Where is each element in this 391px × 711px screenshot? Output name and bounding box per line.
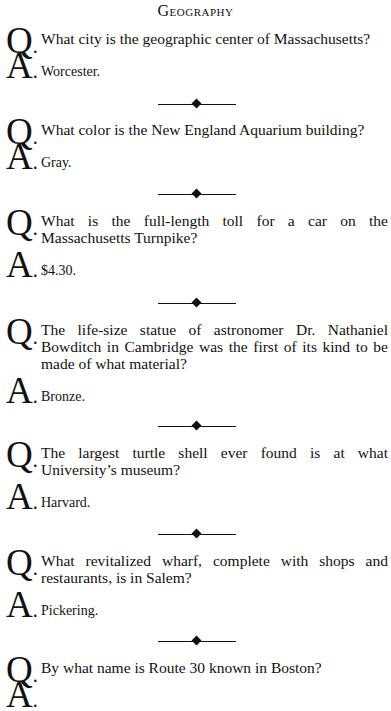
diamond-icon — [192, 636, 202, 646]
question-text: What city is the geographic center of Ma… — [41, 30, 388, 47]
qa-item: Q. The life-size statue of astronomer Dr… — [6, 321, 388, 405]
section-divider — [158, 421, 236, 433]
a-marker: A. — [6, 51, 38, 86]
question-text: The life-size statue of astronomer Dr. N… — [41, 321, 388, 372]
answer-text: Pickering. — [41, 594, 388, 619]
question-text: The largest turtle shell ever found is a… — [41, 444, 388, 478]
q-marker: Q. — [6, 548, 38, 583]
qa-item: Q. What is the full-length toll for a ca… — [6, 212, 388, 279]
q-marker: Q. — [6, 317, 38, 352]
section-divider — [158, 189, 236, 201]
section-divider — [158, 298, 236, 310]
answer-text: $4.30. — [41, 254, 388, 279]
a-marker: A. — [6, 250, 38, 285]
answer-text — [41, 684, 388, 692]
qa-item: Q. What city is the geographic center of… — [6, 30, 388, 80]
qa-item: Q. By what name is Route 30 known in Bos… — [6, 659, 388, 692]
section-divider — [158, 529, 236, 541]
answer-text: Worcester. — [41, 55, 388, 80]
diamond-icon — [192, 529, 202, 539]
question-text: What revitalized wharf, complete with sh… — [41, 552, 388, 586]
qa-item: Q. What color is the New England Aquariu… — [6, 121, 388, 171]
diamond-icon — [192, 421, 202, 431]
answer-text: Gray. — [41, 146, 388, 171]
a-marker: A. — [6, 376, 38, 411]
a-marker: A. — [6, 482, 38, 517]
question-text: What is the full-length toll for a car o… — [41, 212, 388, 246]
q-marker: Q. — [6, 440, 38, 475]
question-text: What color is the New England Aquarium b… — [41, 121, 388, 138]
diamond-icon — [192, 298, 202, 308]
a-marker: A. — [6, 590, 38, 625]
page-title: Geography — [0, 2, 391, 20]
q-marker: Q. — [6, 208, 38, 243]
section-divider — [158, 636, 236, 648]
a-marker: A. — [6, 680, 38, 711]
section-divider — [158, 99, 236, 111]
qa-item: Q. The largest turtle shell ever found i… — [6, 444, 388, 511]
answer-text: Bronze. — [41, 380, 388, 405]
diamond-icon — [192, 189, 202, 199]
diamond-icon — [192, 99, 202, 109]
a-marker: A. — [6, 142, 38, 177]
qa-item: Q. What revitalized wharf, complete with… — [6, 552, 388, 619]
answer-text: Harvard. — [41, 486, 388, 511]
question-text: By what name is Route 30 known in Boston… — [41, 659, 388, 676]
